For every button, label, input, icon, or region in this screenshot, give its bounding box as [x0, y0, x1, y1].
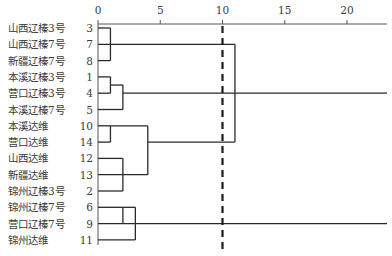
- leaf-id: 8: [86, 55, 93, 67]
- leaf-id: 14: [80, 136, 94, 148]
- leaf-labels: 山西辽榛3号3山西辽榛7号7新疆辽榛7号8本溪辽榛3号1营口辽榛3号4本溪辽榛7…: [8, 22, 93, 246]
- leaf-id: 2: [86, 185, 93, 197]
- leaf-id: 1: [86, 71, 93, 83]
- leaf-name: 新疆达维: [8, 169, 49, 181]
- leaf-id: 6: [86, 201, 93, 213]
- x-tick-label: 5: [157, 4, 164, 16]
- leaf-name: 营口辽榛7号: [8, 218, 65, 230]
- leaf-id: 4: [86, 87, 93, 99]
- leaf-name: 山西辽榛3号: [8, 22, 65, 34]
- leaf-id: 5: [86, 104, 93, 116]
- leaf-name: 营口达维: [8, 136, 49, 148]
- leaf-id: 11: [80, 234, 93, 246]
- x-axis: 05101520: [95, 4, 387, 245]
- dendrogram-chart: 05101520 山西辽榛3号3山西辽榛7号7新疆辽榛7号8本溪辽榛3号1营口辽…: [0, 0, 392, 256]
- leaf-id: 13: [80, 169, 93, 181]
- leaf-name: 新疆辽榛7号: [8, 55, 65, 67]
- leaf-id: 12: [80, 152, 93, 164]
- leaf-name: 锦州辽榛7号: [8, 201, 65, 213]
- leaf-name: 锦州达维: [8, 234, 49, 246]
- leaf-name: 本溪辽榛3号: [8, 71, 65, 83]
- x-tick-label: 20: [340, 4, 353, 16]
- leaf-id: 3: [86, 22, 93, 34]
- leaf-id: 10: [80, 120, 93, 132]
- leaf-name: 锦州辽榛3号: [8, 185, 65, 197]
- dendrogram-branches: [98, 28, 387, 240]
- leaf-name: 本溪达维: [8, 120, 49, 132]
- x-tick-label: 10: [216, 4, 229, 16]
- x-tick-label: 15: [278, 4, 291, 16]
- leaf-name: 本溪辽榛7号: [8, 104, 65, 116]
- leaf-id: 9: [86, 218, 93, 230]
- leaf-name: 山西达维: [8, 152, 49, 164]
- leaf-id: 7: [86, 38, 93, 50]
- x-tick-label: 0: [95, 4, 102, 16]
- leaf-name: 山西辽榛7号: [8, 38, 65, 50]
- leaf-name: 营口辽榛3号: [8, 87, 65, 99]
